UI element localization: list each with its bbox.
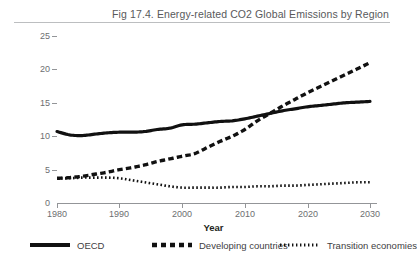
y-tick-mark-20 — [52, 69, 57, 70]
legend-label-developing-countries: Developing countries — [199, 240, 288, 251]
y-tick-label-20: 20 — [30, 64, 50, 74]
y-tick-mark-10 — [52, 136, 57, 137]
y-tick-label-15: 15 — [30, 98, 50, 108]
x-tick-mark-1980 — [57, 203, 58, 208]
legend-swatch-solid-icon — [30, 240, 70, 250]
x-tick-mark-2010 — [245, 203, 246, 208]
legend-label-transition-economies: Transition economies — [327, 240, 417, 251]
x-tick-label-1980: 1980 — [37, 209, 77, 219]
x-tick-mark-1990 — [119, 203, 120, 208]
x-tick-label-2010: 2010 — [225, 209, 265, 219]
legend-swatch-dotted-icon — [280, 240, 320, 250]
x-tick-mark-2020 — [308, 203, 309, 208]
chart-legend: OECD Developing countries Transition eco… — [0, 238, 397, 256]
title-divider — [14, 22, 390, 23]
series-line-oecd — [57, 101, 370, 135]
y-tick-mark-25 — [52, 36, 57, 37]
x-axis-line — [57, 203, 377, 204]
y-tick-label-0: 0 — [30, 198, 50, 208]
x-tick-label-1990: 1990 — [99, 209, 139, 219]
y-tick-label-25: 25 — [30, 31, 50, 41]
page-title: Fig 17.4. Energy-related CO2 Global Emis… — [112, 8, 389, 20]
legend-item-oecd: OECD — [30, 238, 104, 252]
series-line-transition-economies — [57, 178, 370, 188]
x-tick-label-2020: 2020 — [288, 209, 328, 219]
x-axis-title: Year — [0, 222, 397, 233]
x-tick-mark-2030 — [370, 203, 371, 208]
y-tick-mark-15 — [52, 103, 57, 104]
legend-label-oecd: OECD — [77, 240, 104, 251]
y-tick-mark-5 — [52, 170, 57, 171]
chart-title-row: Fig 17.4. Energy-related CO2 Global Emis… — [0, 4, 397, 24]
legend-item-transition-economies: Transition economies — [280, 238, 417, 252]
y-tick-label-10: 10 — [30, 131, 50, 141]
x-tick-label-2000: 2000 — [162, 209, 202, 219]
x-tick-label-2030: 2030 — [350, 209, 390, 219]
series-line-developing-countries — [57, 63, 370, 179]
x-tick-mark-2000 — [182, 203, 183, 208]
legend-item-developing-countries: Developing countries — [152, 238, 288, 252]
legend-swatch-dashed-icon — [152, 240, 192, 250]
y-tick-label-5: 5 — [30, 165, 50, 175]
